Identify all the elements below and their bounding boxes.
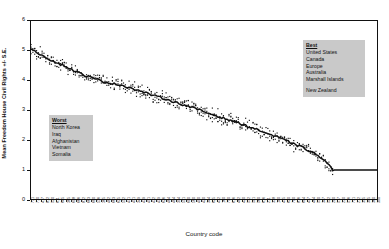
annotation-box-best: Best United States Canada Europe Austral… [303, 40, 365, 97]
x-tick-label: 451 [148, 197, 152, 203]
x-tick-label: 552 [123, 197, 127, 203]
y-axis-title: Mean Freedom House Civil Rights +/- S.E. [0, 28, 10, 178]
annotation-best-item: Australia [306, 69, 362, 76]
x-tick-label: 600 [188, 197, 192, 203]
x-tick-label: 482 [108, 197, 112, 203]
y-tick-label: 3 [14, 107, 25, 113]
annotation-worst-heading: Worst [52, 117, 90, 124]
annotation-worst-item: Iraq [52, 131, 90, 138]
chart-figure: Mean Freedom House Civil Rights +/- S.E.… [0, 0, 389, 249]
x-tick-label: 365 [68, 197, 72, 203]
x-tick-label: 349 [138, 197, 142, 203]
annotation-best-item: New Zealand [306, 87, 362, 94]
x-tick-label: 432 [218, 197, 222, 203]
x-tick-label: 344 [208, 197, 212, 203]
x-tick-label: 680 [93, 197, 97, 203]
annotation-best-item: Europe [306, 63, 362, 70]
x-axis-tick-labels: 7317104178125206116453656986668126636805… [30, 203, 378, 227]
x-tick-label: 551 [183, 197, 187, 203]
x-axis-title: Country code [30, 230, 378, 237]
x-tick-label: 625 [118, 197, 122, 203]
x-tick-label: 484 [173, 197, 177, 203]
y-tick-label: 0 [14, 197, 25, 203]
x-tick-label: 490 [198, 197, 202, 203]
y-tick-label: 5 [14, 47, 25, 53]
annotation-worst-item: Vietnam [52, 144, 90, 151]
annotation-best-item: United States [306, 49, 362, 56]
y-tick-label: 6 [14, 17, 25, 23]
x-tick-label: 625 [213, 197, 217, 203]
annotation-worst-item: Afghanistan [52, 138, 90, 145]
x-tick-label: 560 [193, 197, 197, 203]
x-tick-label: 394 [178, 197, 182, 203]
annotation-box-worst: Worst North Korea Iraq Afghanistan Vietn… [49, 115, 93, 161]
x-tick-label: 666 [78, 197, 82, 203]
annotation-best-heading: Best [306, 42, 362, 49]
x-tick-label: 698 [73, 197, 77, 203]
x-tick-label: 390 [378, 197, 382, 203]
x-tick-label: 812 [83, 197, 87, 203]
annotation-best-item: Canada [306, 56, 362, 63]
x-tick-label: 432 [153, 197, 157, 203]
y-tick-label: 4 [14, 77, 25, 83]
x-tick-label: 439 [143, 197, 147, 203]
x-tick-label: 536 [98, 197, 102, 203]
x-tick-label: 750 [228, 197, 232, 203]
y-axis-title-text: Mean Freedom House Civil Rights +/- S.E. [1, 48, 7, 159]
y-tick-label: 2 [14, 137, 25, 143]
x-tick-label: 663 [113, 197, 117, 203]
x-tick-label: 420 [203, 197, 207, 203]
annotation-worst-item: North Korea [52, 124, 90, 131]
x-tick-label: 365 [103, 197, 107, 203]
x-tick-label: 484 [168, 197, 172, 203]
x-tick-label: 663 [88, 197, 92, 203]
x-tick-label: 626 [163, 197, 167, 203]
annotation-best-item: Marshall Islands [306, 76, 362, 83]
x-tick-label: 160 [223, 197, 227, 203]
x-tick-label: 471 [128, 197, 132, 203]
x-tick-label: 439 [158, 197, 162, 203]
y-tick-label: 1 [14, 167, 25, 173]
x-tick-label: 451 [133, 197, 137, 203]
annotation-worst-item: Somalia [52, 151, 90, 158]
x-tick-label: 645 [62, 197, 66, 203]
